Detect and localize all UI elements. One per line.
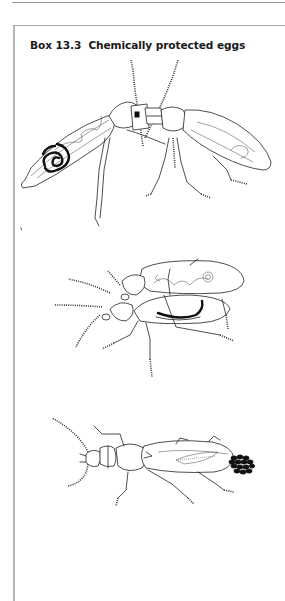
beetle-drawing-2	[50, 255, 250, 385]
egg-cluster	[229, 455, 255, 474]
leg	[94, 426, 124, 446]
antenna	[68, 464, 88, 486]
elytra	[141, 441, 234, 473]
leg	[148, 470, 188, 498]
box-title: Box 13.3 Chemically protected eggs	[30, 39, 245, 51]
leg	[118, 472, 128, 498]
elytron-right	[183, 110, 271, 170]
figure-beetle-pair-cutaway	[50, 255, 250, 385]
antenna	[52, 418, 88, 452]
top-rule	[12, 2, 285, 3]
pronotum-upper	[122, 275, 145, 295]
figure-female-beetle-with-eggs	[48, 412, 260, 508]
leg	[151, 138, 169, 194]
figure-beetle-mating-side-view	[15, 58, 277, 230]
leg	[177, 138, 201, 194]
antenna	[76, 315, 100, 347]
beetle-drawing-1	[15, 58, 277, 230]
antenna	[68, 279, 110, 293]
beetle-drawing-3	[48, 412, 260, 508]
elytron-lower	[134, 295, 230, 324]
pronotum-right	[161, 107, 186, 131]
leg	[198, 472, 224, 490]
leg	[114, 321, 138, 343]
pronotum-lower	[110, 303, 133, 321]
antenna	[54, 305, 102, 307]
head	[86, 450, 101, 466]
leg	[146, 323, 150, 359]
